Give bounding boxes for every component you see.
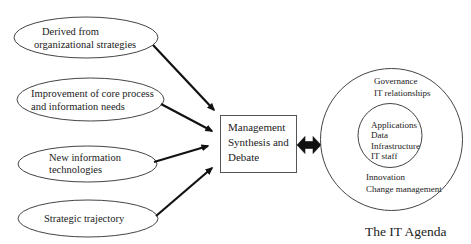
- outer-bottom-line-1: Innovation: [366, 172, 405, 182]
- box-line-3: Debate: [228, 151, 259, 163]
- management-synthesis-box: Management Synthesis and Debate: [221, 116, 297, 173]
- double-arrow-icon: [297, 137, 321, 154]
- arrow-derived-to-box: [153, 45, 214, 110]
- input-node-new-tech: New information technologies: [18, 146, 157, 182]
- input-trajectory-line-1: Strategic trajectory: [44, 213, 125, 224]
- it-agenda-title: The IT Agenda: [365, 224, 446, 239]
- inner-line-3: Infrastructure: [371, 141, 420, 151]
- input-node-trajectory: Strategic trajectory: [18, 200, 158, 237]
- inner-line-1: Applications: [371, 120, 417, 130]
- outer-top-line-2: IT relationships: [374, 88, 431, 98]
- input-improvement-line-1: Improvement of core process: [31, 88, 154, 99]
- it-agenda-diagram: Derived from organizational strategies I…: [0, 0, 471, 244]
- box-line-2: Synthesis and: [228, 136, 289, 148]
- inner-line-4: IT staff: [371, 151, 397, 161]
- box-line-1: Management: [228, 121, 285, 133]
- input-derived-line-2: organizational strategies: [34, 39, 136, 50]
- input-node-derived: Derived from organizational strategies: [14, 17, 158, 58]
- arrow-improvement-to-box: [161, 104, 212, 131]
- input-derived-line-1: Derived from: [42, 26, 99, 37]
- outer-top-line-1: Governance: [374, 76, 417, 86]
- input-new-tech-line-1: New information: [49, 152, 122, 163]
- arrow-trajectory-to-box: [156, 168, 212, 216]
- inner-line-2: Data: [371, 130, 388, 140]
- input-improvement-line-2: and information needs: [31, 101, 125, 112]
- input-node-improvement: Improvement of core process and informat…: [17, 78, 164, 121]
- input-new-tech-line-2: technologies: [49, 164, 102, 175]
- outer-bottom-line-2: Change management: [366, 184, 442, 194]
- it-agenda-circles: Governance IT relationships Applications…: [321, 69, 463, 211]
- arrow-new-tech-to-box: [154, 146, 208, 162]
